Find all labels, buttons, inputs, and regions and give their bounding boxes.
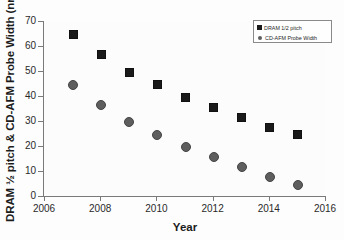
y-axis-title: DRAM ½ pitch & CD-AFM Probe Width (nm) — [1, 4, 19, 222]
data-point — [265, 123, 274, 132]
data-point — [96, 100, 106, 110]
data-point — [209, 152, 219, 162]
x-tick-label: 2010 — [136, 203, 176, 214]
x-tick-label: 2012 — [193, 203, 233, 214]
y-tick-mark — [38, 171, 43, 172]
x-tick-mark — [325, 196, 326, 201]
y-tick-mark — [38, 121, 43, 122]
chart-figure: DRAM ½ pitch & CD-AFM Probe Width (nm) 0… — [0, 0, 344, 240]
data-point — [209, 103, 218, 112]
y-tick-label: 10 — [12, 166, 36, 176]
circle-marker-icon — [258, 36, 262, 40]
y-tick-mark — [38, 21, 43, 22]
y-tick-label: 70 — [12, 16, 36, 26]
y-tick-mark — [38, 96, 43, 97]
data-point — [265, 172, 275, 182]
data-point — [181, 93, 190, 102]
y-tick-label: 20 — [12, 141, 36, 151]
y-axis-line — [43, 21, 44, 197]
y-tick-mark — [38, 71, 43, 72]
data-point — [152, 130, 162, 140]
x-tick-mark — [269, 196, 270, 201]
x-tick-mark — [156, 196, 157, 201]
x-tick-label: 2006 — [24, 203, 64, 214]
data-point — [293, 180, 303, 190]
legend-label-cdafm: CD-AFM Probe Width — [265, 35, 317, 41]
legend-item-cdafm: CD-AFM Probe Width — [257, 33, 329, 42]
plot-area — [44, 21, 325, 196]
data-point — [293, 130, 302, 139]
legend-label-dram: DRAM 1/2 pitch — [264, 25, 302, 31]
y-tick-mark — [38, 196, 43, 197]
data-point — [97, 50, 106, 59]
chart-legend: DRAM 1/2 pitch CD-AFM Probe Width — [253, 20, 332, 43]
x-tick-mark — [213, 196, 214, 201]
data-point — [68, 80, 78, 90]
x-tick-mark — [100, 196, 101, 201]
y-tick-mark — [38, 146, 43, 147]
y-tick-label: 0 — [12, 191, 36, 201]
x-tick-mark — [44, 196, 45, 201]
y-tick-label: 60 — [12, 41, 36, 51]
x-axis-title: Year — [40, 221, 330, 233]
y-tick-label: 50 — [12, 66, 36, 76]
y-tick-label: 40 — [12, 91, 36, 101]
data-point — [69, 30, 78, 39]
data-point — [125, 68, 134, 77]
y-tick-label: 30 — [12, 116, 36, 126]
x-tick-label: 2016 — [305, 203, 344, 214]
data-point — [181, 142, 191, 152]
data-point — [153, 80, 162, 89]
y-tick-mark — [38, 46, 43, 47]
x-tick-label: 2008 — [80, 203, 120, 214]
square-marker-icon — [257, 25, 262, 30]
x-axis-line — [43, 196, 326, 197]
data-point — [237, 162, 247, 172]
x-tick-label: 2014 — [249, 203, 289, 214]
legend-item-dram: DRAM 1/2 pitch — [257, 23, 329, 32]
data-point — [237, 113, 246, 122]
